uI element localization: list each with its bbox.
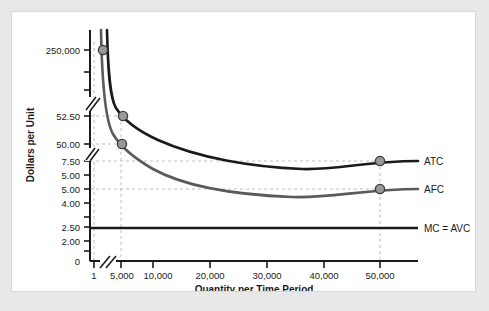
cost-curves-chart: 250,000 52.50 50.00 7.50 5.00 5.00 4.00 … <box>12 12 476 292</box>
y-tick-label-500b: 5.00 <box>62 184 81 195</box>
y-axis-title: Dollars per Unit <box>25 107 36 182</box>
figure-frame: 250,000 52.50 50.00 7.50 5.00 5.00 4.00 … <box>0 0 489 311</box>
y-tick-label-5250: 52.50 <box>56 111 80 122</box>
y-tick-label-0: 0 <box>75 256 80 267</box>
y-tick-label-750: 7.50 <box>62 156 81 167</box>
marker-atc-50000-750 <box>375 156 384 165</box>
y-axis-break-upper <box>85 97 100 111</box>
x-axis-title: Quantity per Time Period <box>195 284 314 292</box>
x-tick-label-5000: 5,000 <box>110 270 134 281</box>
data-markers <box>98 45 384 193</box>
x-tick-label-20000: 20,000 <box>195 270 224 281</box>
marker-atc-5000-5250 <box>118 111 127 120</box>
y-tick-label-400: 4.00 <box>62 198 81 209</box>
curve-label-atc: ATC <box>424 156 443 167</box>
marker-atc-1-250000 <box>98 45 107 54</box>
curve-atc <box>107 30 418 169</box>
x-tick-label-30000: 30,000 <box>252 270 281 281</box>
curve-afc <box>101 30 418 197</box>
y-axis-break-lower <box>85 148 99 161</box>
x-axis-ticks <box>94 261 380 268</box>
y-tick-label-200: 2.00 <box>62 236 81 247</box>
y-tick-label-250000: 250,000 <box>46 45 80 56</box>
x-tick-label-50000: 50,000 <box>365 270 394 281</box>
marker-afc-50000-500 <box>375 184 384 193</box>
axes <box>90 30 418 261</box>
y-tick-label-5000a: 50.00 <box>56 139 80 150</box>
x-tick-label-1: 1 <box>91 270 96 281</box>
marker-afc-5000-5000 <box>117 139 126 148</box>
chart-panel: 250,000 52.50 50.00 7.50 5.00 5.00 4.00 … <box>11 11 476 292</box>
curve-label-mc-avc: MC = AVC <box>424 223 470 234</box>
x-tick-label-10000: 10,000 <box>143 270 172 281</box>
x-axis-break <box>100 256 116 268</box>
curve-label-afc: AFC <box>424 184 444 195</box>
y-tick-label-500a: 5.00 <box>62 170 81 181</box>
x-tick-label-40000: 40,000 <box>309 270 338 281</box>
y-tick-label-250: 2.50 <box>62 222 81 233</box>
